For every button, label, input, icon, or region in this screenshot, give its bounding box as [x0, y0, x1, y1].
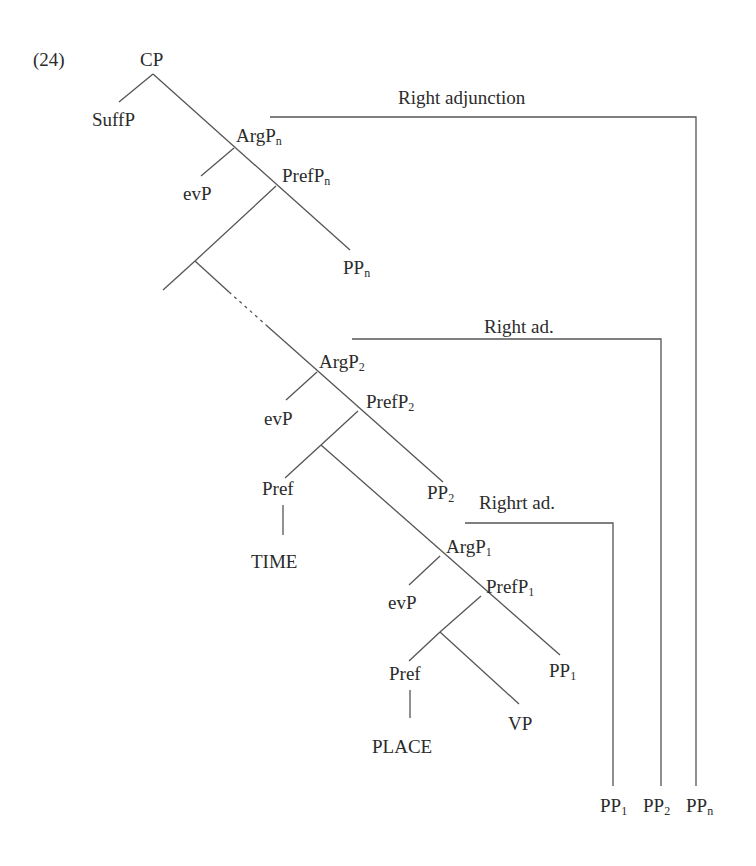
adjoined-pp-2: PP2: [643, 795, 670, 818]
node-evp-2: evP: [264, 408, 293, 429]
edge-intermediate-left: [163, 261, 195, 290]
node-argp-1: ArgP1: [446, 536, 492, 559]
edge-argp1-evp: [409, 556, 440, 585]
adjoined-pp-n: PPn: [686, 795, 713, 818]
edge-to-pref-2: [285, 445, 321, 478]
edge-argpn-evp: [201, 148, 234, 176]
node-time: TIME: [251, 551, 297, 572]
node-pp-2: PP2: [427, 482, 454, 505]
label-right-adjunction: Right adjunction: [398, 87, 526, 108]
edge-prefp1-down: [440, 596, 481, 632]
node-place: PLACE: [372, 736, 432, 757]
node-argp-2: ArgP2: [319, 351, 365, 374]
node-prefp-n: PrefPn: [282, 165, 330, 188]
example-number: (24): [33, 49, 65, 71]
edge-prefp2-down: [321, 411, 358, 445]
node-cp: CP: [140, 49, 163, 70]
adjoined-pp-1: PP1: [600, 795, 627, 818]
syntax-tree-diagram: (24) CP SuffP ArgPn evP PrefPn PPn Right…: [0, 0, 756, 866]
edge-spine-to-pp2: [266, 325, 443, 482]
node-pp-n: PPn: [343, 257, 370, 280]
edge-cp-suffp: [119, 74, 153, 102]
label-right-ad-inner: Righrt ad.: [479, 492, 555, 513]
edge-to-vp: [440, 632, 519, 704]
node-prefp-2: PrefP2: [366, 391, 414, 414]
node-vp: VP: [508, 713, 532, 734]
node-argp-n: ArgPn: [236, 125, 282, 148]
node-evp-n: evP: [183, 183, 212, 204]
edge-cp-ppn-spine: [153, 74, 350, 250]
edge-ellipsis-dashed: [229, 292, 266, 325]
bracket-right-ad-inner: [465, 523, 613, 786]
node-pref-1: Pref: [389, 663, 421, 684]
node-suffp: SuffP: [92, 109, 135, 130]
edge-to-pref-1: [409, 632, 440, 661]
node-pref-2: Pref: [262, 478, 294, 499]
node-evp-1: evP: [388, 592, 417, 613]
node-pp-1: PP1: [549, 660, 576, 683]
edge-argp2-evp: [286, 372, 317, 400]
edge-intermediate-right: [195, 261, 229, 292]
node-prefp-1: PrefP1: [486, 576, 534, 599]
bracket-right-adjunction: [270, 117, 696, 786]
edge-spine-to-pp1: [321, 445, 560, 655]
label-right-ad-middle: Right ad.: [484, 316, 554, 337]
